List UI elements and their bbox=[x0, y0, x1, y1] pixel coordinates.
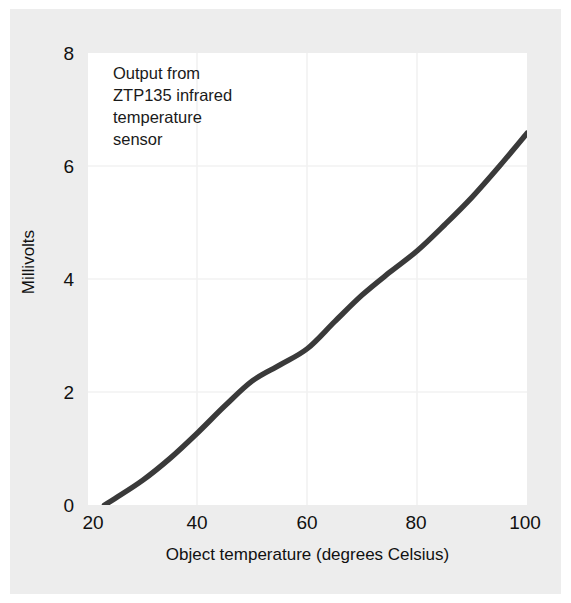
chart-figure: Output from ZTP135 infrared temperature … bbox=[0, 0, 571, 603]
x-tick-label: 100 bbox=[490, 512, 560, 534]
x-tick-label: 40 bbox=[162, 512, 232, 534]
y-tick-label: 6 bbox=[18, 156, 74, 178]
plot-area: Output from ZTP135 infrared temperature … bbox=[88, 53, 527, 505]
x-axis-label: Object temperature (degrees Celsius) bbox=[88, 545, 527, 565]
y-tick-label: 8 bbox=[18, 43, 74, 65]
chart-annotation: Output from ZTP135 infrared temperature … bbox=[113, 62, 323, 150]
x-tick-label: 20 bbox=[58, 512, 128, 534]
x-tick-label: 80 bbox=[381, 512, 451, 534]
y-tick-label: 2 bbox=[18, 382, 74, 404]
y-axis-label: Millivolts bbox=[19, 202, 39, 322]
x-tick-label: 60 bbox=[272, 512, 342, 534]
